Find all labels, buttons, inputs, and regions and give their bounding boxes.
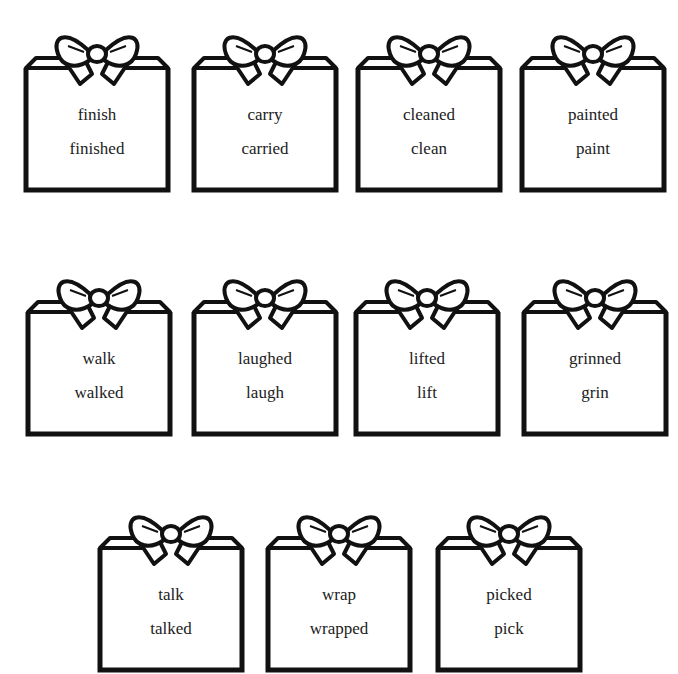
word-2: wrapped	[276, 612, 402, 646]
word-1: finish	[34, 98, 160, 132]
word-1: picked	[446, 578, 572, 612]
word-1: laughed	[202, 342, 328, 376]
word-1: painted	[530, 98, 656, 132]
gift-tag: carry carried	[192, 18, 338, 194]
word-2: laugh	[202, 376, 328, 410]
word-1: carry	[202, 98, 328, 132]
gift-tag: finish finished	[24, 18, 170, 194]
word-2: walked	[36, 376, 162, 410]
gift-tag: painted paint	[520, 18, 666, 194]
word-1: cleaned	[366, 98, 492, 132]
gift-tag: talk talked	[98, 498, 244, 674]
gift-tag: lifted lift	[354, 262, 500, 438]
word-2: lift	[364, 376, 490, 410]
gift-tag: picked pick	[436, 498, 582, 674]
word-2: paint	[530, 132, 656, 166]
gift-tag: cleaned clean	[356, 18, 502, 194]
word-1: walk	[36, 342, 162, 376]
word-1: talk	[108, 578, 234, 612]
word-1: grinned	[532, 342, 658, 376]
gift-tag: wrap wrapped	[266, 498, 412, 674]
word-2: grin	[532, 376, 658, 410]
word-1: lifted	[364, 342, 490, 376]
gift-tag: walk walked	[26, 262, 172, 438]
gift-tag: laughed laugh	[192, 262, 338, 438]
word-2: finished	[34, 132, 160, 166]
word-2: talked	[108, 612, 234, 646]
word-2: clean	[366, 132, 492, 166]
gift-tag: grinned grin	[522, 262, 668, 438]
word-2: carried	[202, 132, 328, 166]
word-2: pick	[446, 612, 572, 646]
word-1: wrap	[276, 578, 402, 612]
